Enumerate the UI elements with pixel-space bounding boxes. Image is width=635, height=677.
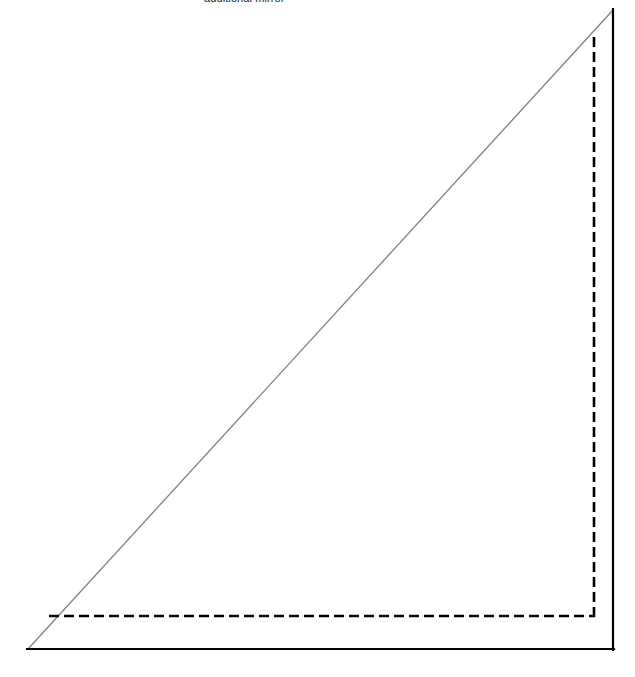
triangle-hypotenuse-line xyxy=(28,10,613,649)
diagram-canvas: additional mirror xyxy=(0,0,635,677)
geometry-diagram xyxy=(0,0,635,677)
